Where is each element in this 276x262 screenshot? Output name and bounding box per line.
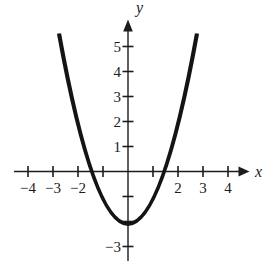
x-tick-label: 4 bbox=[224, 180, 232, 196]
parabola-graph: xy−4−3−223412345−3 bbox=[0, 0, 276, 262]
x-axis-arrowhead-icon bbox=[239, 167, 250, 177]
x-tick-label: −2 bbox=[70, 180, 86, 196]
y-tick-label: 1 bbox=[114, 139, 122, 155]
y-axis-label: y bbox=[134, 0, 144, 17]
x-tick-label: −3 bbox=[45, 180, 61, 196]
y-axis-arrowhead-icon bbox=[123, 20, 133, 32]
x-axis-label: x bbox=[254, 163, 262, 180]
x-tick-label: 2 bbox=[174, 180, 182, 196]
y-tick-label: 2 bbox=[114, 114, 122, 130]
y-tick-label: 5 bbox=[114, 39, 122, 55]
graph-figure: xy−4−3−223412345−3 bbox=[0, 0, 276, 262]
y-tick-label: 3 bbox=[114, 89, 122, 105]
y-tick-label: −3 bbox=[105, 239, 121, 255]
x-tick-label: 3 bbox=[199, 180, 207, 196]
y-tick-label: 4 bbox=[114, 64, 122, 80]
x-tick-label: −4 bbox=[20, 180, 36, 196]
